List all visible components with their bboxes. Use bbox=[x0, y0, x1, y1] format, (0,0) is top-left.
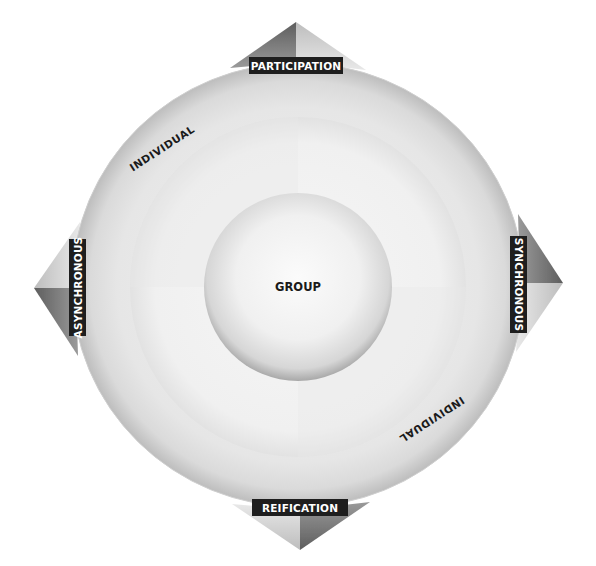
label-reification: REIFICATION bbox=[252, 499, 348, 516]
label-participation: PARTICIPATION bbox=[249, 57, 343, 74]
label-reification-text: REIFICATION bbox=[262, 502, 338, 514]
label-synchronous-text: SYNCHRONOUS bbox=[513, 238, 525, 331]
label-participation-text: PARTICIPATION bbox=[251, 60, 342, 72]
label-asynchronous: ASYNCHRONOUS bbox=[69, 237, 86, 339]
diagram-canvas: GROUP INDIVIDUAL INDIVIDUAL PARTICIPATIO… bbox=[0, 0, 596, 566]
label-asynchronous-text: ASYNCHRONOUS bbox=[72, 237, 84, 339]
label-synchronous: SYNCHRONOUS bbox=[510, 236, 527, 333]
center-label: GROUP bbox=[275, 280, 321, 294]
